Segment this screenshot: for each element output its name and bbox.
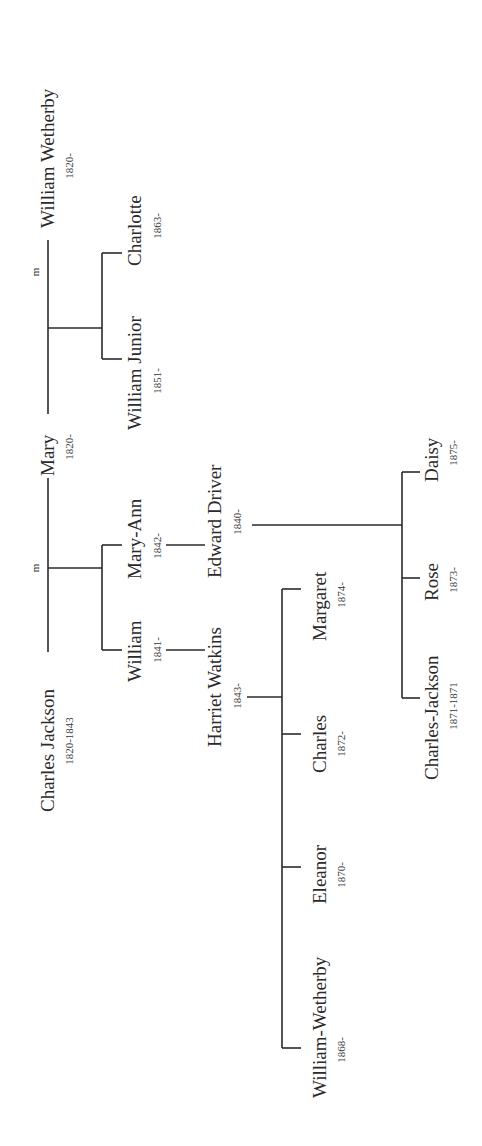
person-name: Rose [421, 563, 442, 601]
family-tree-diagram: m m William Wetherby 1820- Charlotte 186… [0, 0, 482, 1146]
person-dates: 1872- [335, 731, 347, 757]
person-name: William-Wetherby [309, 956, 330, 1098]
person-name: Mary-Ann [124, 498, 145, 579]
person-eleanor: Eleanor 1870- [309, 844, 347, 904]
person-edward-driver: Edward Driver 1840- [204, 464, 243, 578]
person-dates: 1873- [447, 567, 459, 593]
person-name: Daisy [421, 437, 442, 482]
person-dates: 1870- [335, 862, 347, 888]
marriage-markers: m m [29, 267, 41, 572]
person-name: Harriet Watkins [204, 627, 225, 747]
person-name: Edward Driver [204, 464, 225, 578]
person-dates: 1868- [335, 1037, 347, 1063]
person-dates: 1851- [151, 368, 163, 394]
person-dates: 1842- [151, 533, 163, 559]
person-rose: Rose 1873- [421, 563, 459, 601]
person-dates: 1843- [231, 683, 243, 709]
person-name: William Junior [124, 316, 145, 430]
person-name: Mary [37, 434, 58, 476]
person-harriet-watkins: Harriet Watkins 1843- [204, 627, 243, 747]
person-name: Margaret [309, 571, 330, 641]
person-name: William Wetherby [37, 88, 58, 228]
person-name: Charles-Jackson [421, 655, 442, 780]
connector-lines [48, 240, 420, 1048]
person-charles: Charles 1872- [309, 715, 347, 773]
person-william-wetherby-jr: William-Wetherby 1868- [309, 956, 347, 1098]
person-name: Charles [309, 715, 330, 773]
person-name: William [124, 620, 145, 682]
person-daisy: Daisy 1875- [421, 437, 459, 482]
person-dates: 1871-1871 [447, 682, 459, 730]
marriage-marker-upper: m [29, 267, 41, 276]
person-name: Charles Jackson [37, 689, 58, 812]
person-dates: 1874- [335, 582, 347, 608]
person-dates: 1820- [63, 153, 75, 179]
person-mary-ann: Mary-Ann 1842- [124, 498, 163, 579]
person-charles-jackson-jr: Charles-Jackson 1871-1871 [421, 655, 459, 780]
person-dates: 1820- [63, 434, 75, 460]
person-charles-jackson-sr: Charles Jackson 1820-1843 [37, 689, 75, 812]
person-dates: 1841- [151, 637, 163, 663]
person-dates: 1820-1843 [63, 717, 75, 765]
person-name: Charlotte [124, 195, 145, 266]
person-margaret: Margaret 1874- [309, 571, 347, 641]
person-william-junior: William Junior 1851- [124, 316, 163, 430]
person-dates: 1840- [231, 509, 243, 535]
person-dates: 1875- [447, 440, 459, 466]
person-name: Eleanor [309, 844, 330, 904]
person-mary: Mary 1820- [37, 434, 75, 476]
person-william-wetherby-sr: William Wetherby 1820- [37, 88, 75, 228]
person-charlotte: Charlotte 1863- [124, 195, 163, 266]
person-dates: 1863- [151, 213, 163, 239]
person-william: William 1841- [124, 620, 163, 682]
marriage-marker-lower: m [29, 563, 41, 572]
